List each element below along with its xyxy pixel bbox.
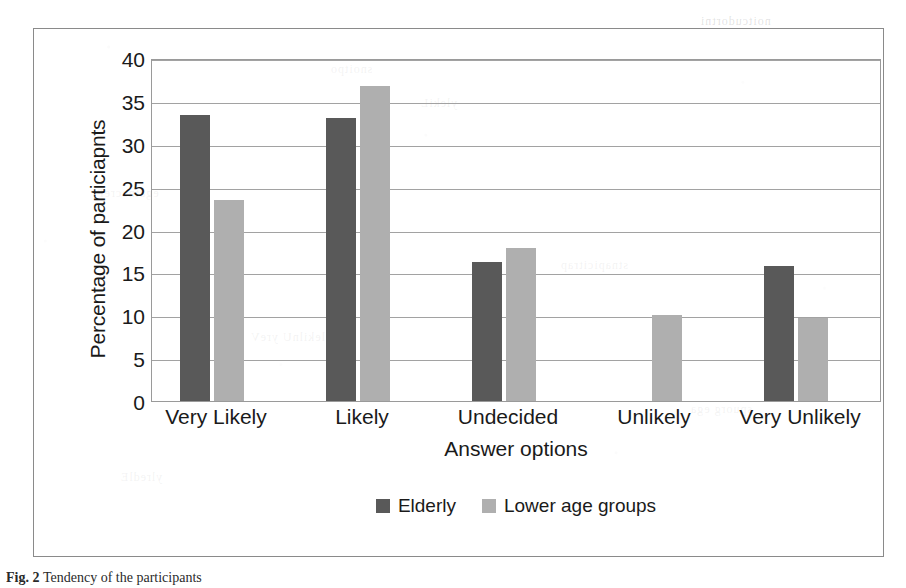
chart-frame: Percentage of particiapnts 0510152025303…: [33, 28, 884, 557]
x-axis-title: Answer options: [151, 437, 881, 461]
x-axis-tick-label: Likely: [335, 405, 389, 429]
legend-swatch-icon: [376, 499, 390, 513]
bar-group: [590, 60, 736, 401]
y-axis-tick-label: 20: [75, 220, 145, 241]
bar: [506, 248, 536, 401]
legend-swatch-icon: [482, 499, 496, 513]
bar: [764, 266, 794, 401]
x-axis-tick-labels: Very LikelyLikelyUndecidedUnlikelyVery U…: [151, 405, 881, 437]
legend-item: Elderly: [376, 495, 456, 517]
y-axis-tick-label: 30: [75, 134, 145, 155]
y-axis-tick-label: 35: [75, 91, 145, 112]
bleed-through-text: noitcudortni: [700, 14, 771, 29]
plot-area: [151, 59, 881, 402]
bar: [798, 318, 828, 401]
bar-group: [736, 60, 882, 401]
bar-group: [152, 60, 298, 401]
bars-layer: [152, 60, 880, 401]
bar-group: [444, 60, 590, 401]
x-axis-tick-label: Unlikely: [617, 405, 691, 429]
y-axis-tick-label: 0: [75, 392, 145, 413]
bar-group: [298, 60, 444, 401]
bar: [652, 315, 682, 401]
legend-label: Lower age groups: [504, 495, 656, 517]
bar: [326, 118, 356, 401]
x-axis-tick-label: Very Likely: [165, 405, 267, 429]
y-axis-tick-label: 10: [75, 306, 145, 327]
x-axis-tick-label: Undecided: [458, 405, 558, 429]
bar: [472, 262, 502, 401]
chart-legend: ElderlyLower age groups: [151, 495, 881, 517]
y-axis-tick-label: 25: [75, 177, 145, 198]
bar: [180, 115, 210, 401]
y-axis-tick-label: 40: [75, 49, 145, 70]
bar: [214, 200, 244, 402]
figure-caption-text: Tendency of the participants: [43, 570, 202, 585]
y-axis-tick-label: 15: [75, 263, 145, 284]
figure-caption-label: Fig. 2: [6, 570, 39, 585]
y-axis-tick-label: 5: [75, 349, 145, 370]
bar: [360, 86, 390, 401]
legend-label: Elderly: [398, 495, 456, 517]
figure-caption: Fig. 2 Tendency of the participants: [6, 570, 566, 588]
x-axis-tick-label: Very Unlikely: [739, 405, 860, 429]
legend-item: Lower age groups: [482, 495, 656, 517]
